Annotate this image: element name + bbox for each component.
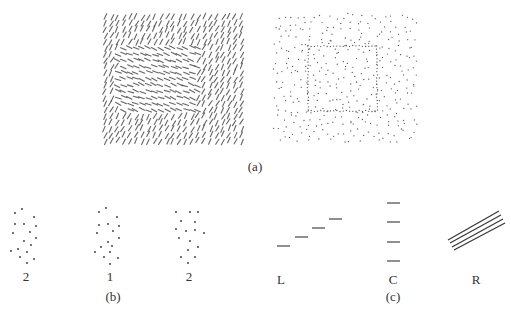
line-figures [277, 203, 505, 261]
panel-c-label: (c) [386, 289, 400, 305]
figure: (a) 2 1 2 (b) L C R (c) [0, 0, 511, 312]
panel-b-label: (b) [105, 289, 120, 305]
random-dot-texture [273, 13, 418, 143]
figure-label-L: L [277, 272, 285, 288]
panel-a-label: (a) [248, 159, 262, 175]
dot-clusters [10, 207, 205, 265]
cluster-label: 1 [107, 269, 114, 285]
figure-label-R: R [472, 272, 481, 288]
oriented-line-texture [103, 13, 244, 145]
figure-canvas [0, 0, 511, 312]
figure-label-C: C [389, 272, 398, 288]
cluster-label: 2 [186, 269, 193, 285]
cluster-label: 2 [23, 269, 30, 285]
